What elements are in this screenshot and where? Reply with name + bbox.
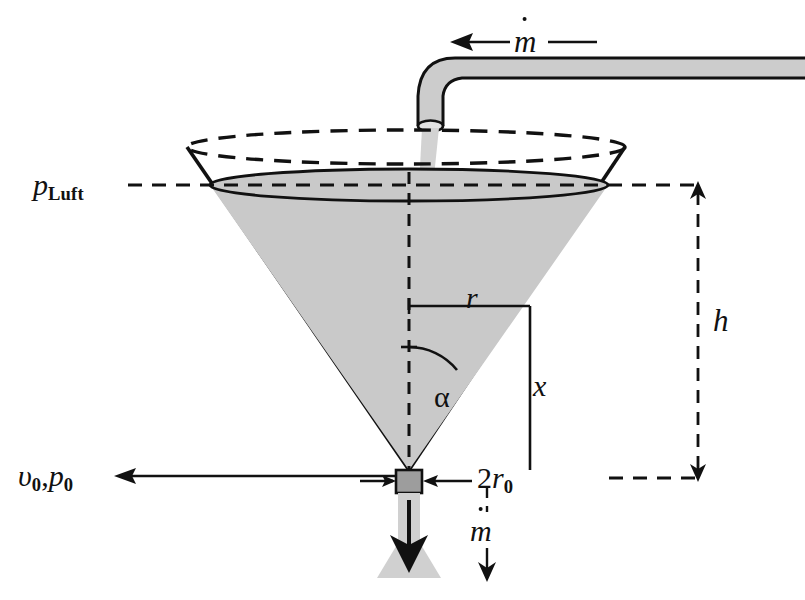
mdot-outflow-base: m <box>470 514 492 547</box>
v0p0-separator: , <box>41 459 49 492</box>
pipe-body-fill <box>418 58 805 125</box>
inflow-pipe <box>418 58 805 132</box>
label-ambient-pressure: pLuft <box>33 170 84 204</box>
height-h-dimension <box>609 181 706 482</box>
p-luft-subscript: Luft <box>48 183 84 204</box>
v0-subscript: 0 <box>32 474 41 495</box>
two-r0-base: r <box>492 461 504 494</box>
cone-rim-dashed-ellipse <box>187 130 625 164</box>
v0-base: υ <box>18 459 32 492</box>
label-outlet-velocity-pressure: υ0,p0 <box>18 461 73 495</box>
label-mdot-outflow: m <box>470 516 492 546</box>
label-height-x: x <box>533 371 546 401</box>
outflow-jet <box>377 493 441 578</box>
two-r0-subscript: 0 <box>504 476 513 497</box>
two-r0-coefficient: 2 <box>477 461 492 494</box>
outflow-nozzle <box>396 470 422 493</box>
pipe-inner-edge <box>443 78 805 126</box>
label-liquid-height-h: h <box>713 305 729 336</box>
cone-rim <box>187 130 625 164</box>
label-cone-angle-alpha: α <box>434 382 450 412</box>
mdot-inflow-glyph: m <box>514 26 536 57</box>
nozzle-throat <box>396 470 422 493</box>
mdot-inflow-base: m <box>514 24 536 59</box>
label-outlet-diameter: 2r0 <box>477 463 513 497</box>
label-radius-r: r <box>466 283 478 313</box>
p-luft-base: p <box>33 168 48 201</box>
label-mdot-inflow: m <box>514 26 536 57</box>
outlet-state-leader <box>114 468 395 484</box>
p0-subscript: 0 <box>64 474 73 495</box>
p0-base: p <box>49 459 64 492</box>
schematic-svg <box>0 0 805 600</box>
figure-canvas: m pLuft r x α h υ0,p0 2r0 m <box>0 0 805 600</box>
mdot-outflow-glyph: m <box>470 516 492 546</box>
